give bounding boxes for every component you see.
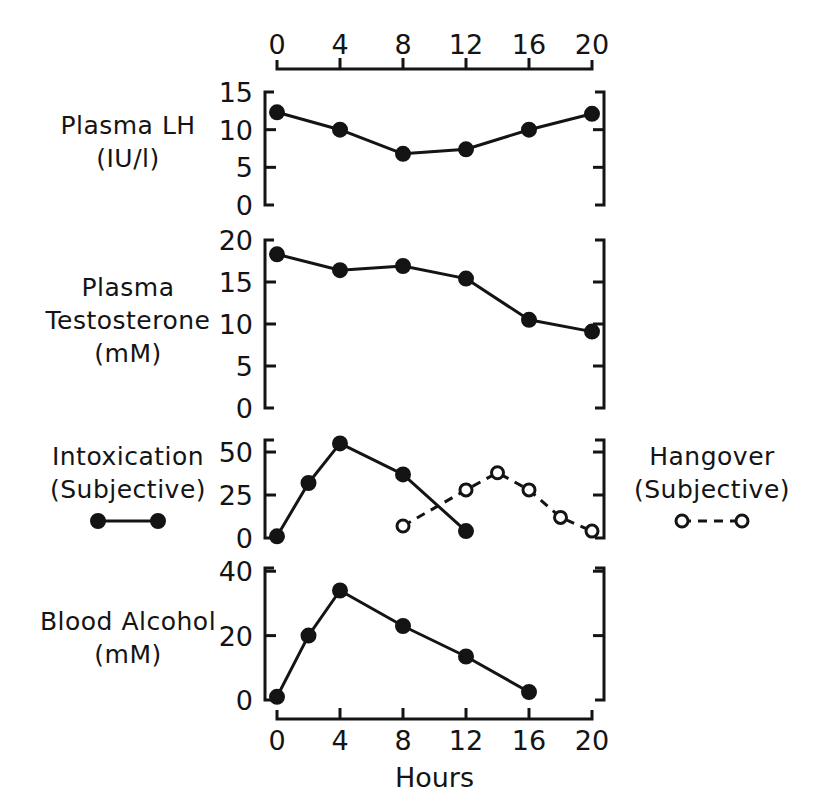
series-line-1 — [277, 254, 592, 331]
y-tick-label: 5 — [236, 152, 253, 183]
data-point-filled — [333, 436, 347, 450]
data-point-filled — [585, 107, 599, 121]
y-tick-label: 0 — [236, 393, 253, 424]
series-line-1 — [277, 591, 529, 697]
data-point-filled — [302, 629, 316, 643]
panel-label-testosterone: Plasma — [81, 273, 174, 302]
panel-alcohol: 02040 — [219, 556, 604, 716]
y-tick-label: 20 — [219, 621, 253, 652]
panel-label-intoxication: Intoxication — [52, 442, 204, 471]
y-axis-right-spine — [595, 440, 604, 538]
data-point-filled — [522, 123, 536, 137]
data-point-filled — [522, 685, 536, 699]
y-tick-label: 0 — [236, 190, 253, 221]
panel-label-testosterone-units: (mM) — [94, 339, 161, 368]
data-point-filled — [333, 263, 347, 277]
data-point-filled — [522, 313, 536, 327]
panel-label-lh: Plasma LH — [60, 111, 195, 140]
x-tick-label-bottom: 12 — [449, 725, 483, 756]
data-point-filled — [333, 123, 347, 137]
data-point-filled — [270, 247, 284, 261]
data-point-filled — [270, 690, 284, 704]
x-tick-label-top: 8 — [394, 29, 411, 60]
x-tick-label-bottom: 20 — [575, 725, 609, 756]
data-point-filled — [459, 524, 473, 538]
data-point-filled — [270, 105, 284, 119]
x-axis-top-spine — [277, 60, 592, 69]
data-point-open — [523, 484, 535, 496]
panel-testosterone: 05101520 — [219, 225, 604, 424]
panel-label-alcohol-units: (mM) — [94, 640, 161, 669]
y-tick-label: 15 — [219, 77, 253, 108]
y-tick-label: 20 — [219, 225, 253, 256]
x-tick-label-top: 16 — [512, 29, 546, 60]
x-tick-label-top: 20 — [575, 29, 609, 60]
data-point-filled — [459, 272, 473, 286]
y-axis-right-spine — [595, 568, 604, 700]
y-tick-label: 15 — [219, 267, 253, 298]
y-tick-label: 10 — [219, 309, 253, 340]
panel-label-lh-units: (IU/l) — [96, 144, 160, 173]
y-axis-left-spine — [265, 440, 274, 538]
x-axis-bottom-spine — [277, 710, 592, 719]
panel-label-alcohol: Blood Alcohol — [40, 607, 216, 636]
y-tick-label: 25 — [219, 480, 253, 511]
legend-marker-intoxication-left — [91, 514, 105, 528]
x-axis-title: Hours — [395, 762, 474, 793]
x-tick-label-bottom: 4 — [331, 725, 348, 756]
series-line-1 — [277, 112, 592, 154]
data-point-filled — [270, 529, 284, 543]
legend-marker-hangover-left — [676, 515, 688, 527]
data-point-filled — [396, 259, 410, 273]
x-tick-label-top: 4 — [331, 29, 348, 60]
panel-label-testosterone-2: Testosterone — [45, 306, 211, 335]
data-point-filled — [396, 147, 410, 161]
y-tick-label: 0 — [236, 685, 253, 716]
data-point-open — [586, 525, 598, 537]
panel-label-hangover: Hangover — [649, 442, 775, 471]
x-tick-label-bottom: 8 — [394, 725, 411, 756]
legend-marker-hangover-right — [736, 515, 748, 527]
data-point-filled — [459, 142, 473, 156]
panel-intoxication: 02550 — [219, 436, 604, 554]
y-tick-label: 5 — [236, 351, 253, 382]
figure-root: 0510150510152002550020400481216200481216… — [0, 0, 815, 808]
y-tick-label: 10 — [219, 115, 253, 146]
data-point-filled — [333, 584, 347, 598]
data-point-open — [555, 511, 567, 523]
data-point-open — [492, 467, 504, 479]
legend-marker-intoxication-right — [151, 514, 165, 528]
x-tick-label-top: 0 — [268, 29, 285, 60]
x-tick-label-bottom: 0 — [268, 725, 285, 756]
data-point-filled — [585, 325, 599, 339]
panel-lh: 051015 — [219, 77, 604, 221]
y-tick-label: 40 — [219, 556, 253, 587]
y-tick-label: 0 — [236, 523, 253, 554]
x-tick-label-bottom: 16 — [512, 725, 546, 756]
multi-panel-line-chart: 0510150510152002550020400481216200481216… — [0, 0, 815, 808]
y-axis-left-spine — [265, 568, 274, 700]
y-tick-label: 50 — [219, 437, 253, 468]
panel-label-intoxication-2: (Subjective) — [50, 475, 206, 504]
x-tick-label-top: 12 — [449, 29, 483, 60]
panel-label-hangover-2: (Subjective) — [634, 475, 790, 504]
data-point-filled — [302, 476, 316, 490]
data-point-open — [397, 520, 409, 532]
data-point-filled — [396, 619, 410, 633]
data-point-filled — [459, 650, 473, 664]
data-point-open — [460, 484, 472, 496]
data-point-filled — [396, 467, 410, 481]
